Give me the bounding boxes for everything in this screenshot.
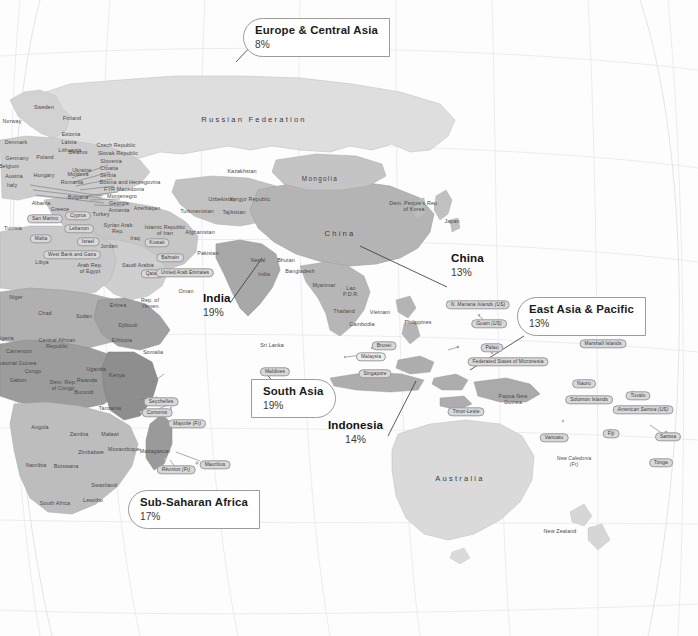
callout-name: South Asia [263,385,324,398]
annotation-india: India 19% [203,292,231,318]
callout-south-asia: South Asia 19% [251,379,336,418]
pill-brunei: Brunei [372,341,397,350]
annotation-value: 19% [203,307,231,318]
pill-american-samoa: American Samoa (US) [613,405,674,414]
pill-guam: Guam (US) [471,319,507,328]
pill-vanuatu: Vanuatu [540,433,569,442]
callout-value: 13% [529,318,634,329]
callout-name: East Asia & Pacific [529,303,634,316]
pill-malaysia: Malaysia [356,352,386,361]
annotation-name: China [451,252,484,265]
pill-micronesia: Federated States of Micronesia [468,357,549,366]
pill-n-mariana-islands: N. Mariana Islands (US) [446,300,510,309]
callout-value: 19% [263,400,324,411]
pill-san-marino: San Marino [27,214,63,223]
pill-united-arab-emirates: United Arab Emirates [156,268,214,277]
pill-kuwait: Kuwait [144,238,169,247]
pill-nauru: Nauru [572,379,596,388]
pill-bahrain: Bahrain [156,253,184,262]
annotation-value: 14% [328,434,383,445]
callout-sub-saharan-africa: Sub-Saharan Africa 17% [128,490,260,529]
pill-maldives: Maldives [260,367,290,376]
pill-comoros: Comoros [142,408,173,417]
pill-marshall-islands: Marshall Islands [580,339,627,348]
pill-tuvalu: Tuvalu [625,391,650,400]
annotation-name: India [203,292,231,305]
pill-lebanon: Lebanon [64,224,94,233]
pill-fiji: Fiji [603,429,620,438]
pill-palau: Palau [480,343,503,352]
pill-seychelles: Seychelles [144,397,179,406]
world-map-figure: Russian Federation China Australia Mongo… [0,0,698,636]
landmass-north-africa [0,226,116,296]
callout-value: 8% [255,39,378,50]
pill-reunion: Réunion (Fr) [157,465,196,474]
annotation-china: China 13% [451,252,484,278]
pill-israel: Israel [77,237,100,246]
pill-solomon-islands: Solomon Islands [565,395,613,404]
callout-value: 17% [140,511,248,522]
pill-singapore: Singapore [358,369,391,378]
callout-name: Sub-Saharan Africa [140,496,248,509]
pill-timor-leste: Timor-Leste [447,407,484,416]
pill-mayotte: Mayotte (Fr) [168,419,206,428]
pill-cyprus: Cyprus [65,211,91,220]
annotation-name: Indonesia [328,419,383,432]
pill-samoa: Samoa [655,432,681,441]
callout-east-asia-pacific: East Asia & Pacific 13% [517,297,646,336]
callout-europe-central-asia: Europe & Central Asia 8% [243,18,390,57]
pill-malta: Malta [30,234,52,243]
pill-mauritius: Mauritius [200,460,231,469]
pill-west-bank-and-gaza: West Bank and Gaza [43,250,101,259]
pill-tonga: Tonga [649,458,673,467]
callout-name: Europe & Central Asia [255,24,378,37]
annotation-indonesia: Indonesia 14% [328,419,383,445]
annotation-value: 13% [451,267,484,278]
